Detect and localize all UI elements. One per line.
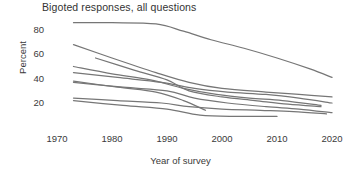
series-line xyxy=(96,58,322,107)
series-line xyxy=(74,73,333,103)
series-line xyxy=(74,98,327,114)
series-line xyxy=(74,23,333,78)
series-line xyxy=(74,101,278,117)
plot-area xyxy=(0,0,361,174)
series-lines xyxy=(74,23,333,117)
chart-container: Bigoted responses, all questions Percent… xyxy=(0,0,361,174)
